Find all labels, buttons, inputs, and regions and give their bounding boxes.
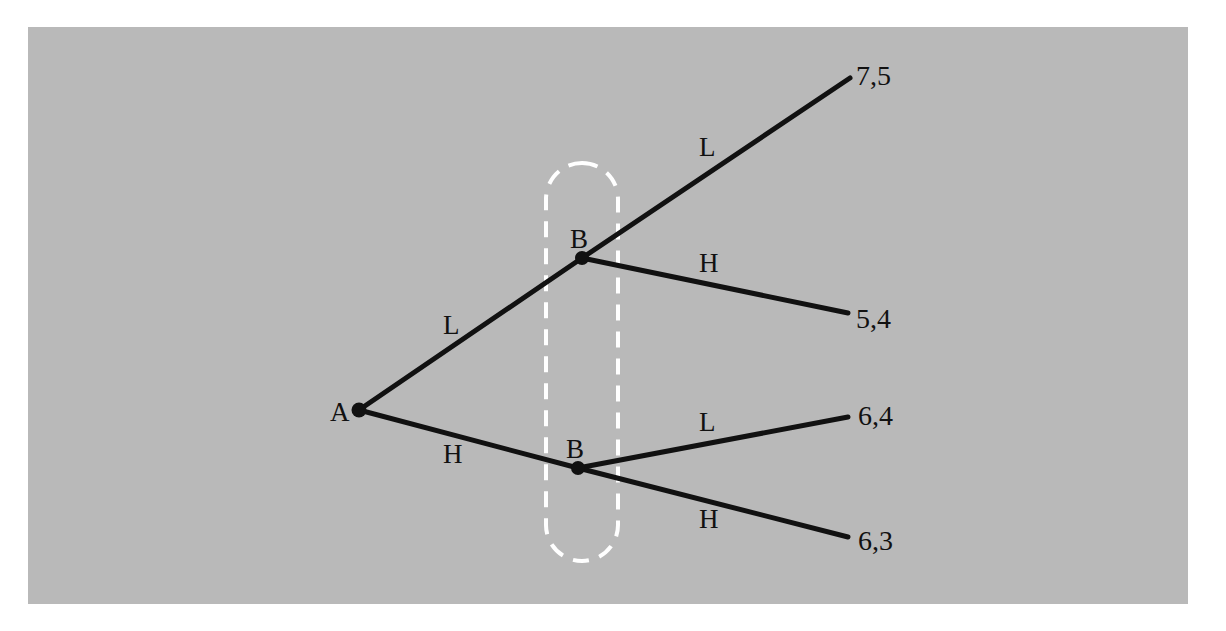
node-label-lower-b: B bbox=[566, 436, 584, 463]
information-set-oval bbox=[546, 163, 618, 561]
branch-upper-L bbox=[582, 78, 850, 258]
payoff-hh: 6,3 bbox=[858, 527, 893, 555]
branch-root-to-upper bbox=[359, 258, 582, 410]
edge-label-upper-h: H bbox=[699, 250, 719, 277]
game-tree-graphics bbox=[0, 0, 1226, 631]
node-label-upper-b: B bbox=[570, 226, 588, 253]
payoff-lh: 5,4 bbox=[856, 305, 891, 333]
payoff-hl: 6,4 bbox=[858, 402, 893, 430]
node-label-a: A bbox=[330, 399, 350, 426]
edge-label-upper-l: L bbox=[699, 134, 716, 161]
edge-label-root-to-lower: H bbox=[443, 441, 463, 468]
figure-canvas: A B B L H L H L H 7,5 5,4 6,4 6,3 bbox=[0, 0, 1226, 631]
node-dot-root bbox=[352, 403, 367, 418]
edge-label-lower-l: L bbox=[699, 409, 716, 436]
edge-label-root-to-upper: L bbox=[443, 312, 460, 339]
payoff-ll: 7,5 bbox=[856, 62, 891, 90]
edge-label-lower-h: H bbox=[699, 506, 719, 533]
